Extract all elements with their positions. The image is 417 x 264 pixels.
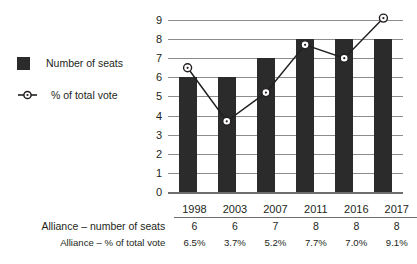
table-header-year: 1998 bbox=[174, 200, 214, 218]
y-axis-tick-label: 6 bbox=[156, 72, 162, 83]
table-header-row: 1998 2003 2007 2011 2016 2017 bbox=[0, 200, 417, 218]
table-cell: 8 bbox=[336, 218, 376, 235]
table-cell: 6 bbox=[215, 218, 255, 235]
data-table: 1998 2003 2007 2011 2016 2017 Alliance –… bbox=[0, 200, 417, 250]
table-row: Alliance – % of total vote 6.5% 3.7% 5.2… bbox=[0, 234, 417, 250]
legend-label-number-of-seats: Number of seats bbox=[43, 57, 123, 69]
table-corner-cell bbox=[0, 200, 174, 218]
table-header-year: 2017 bbox=[377, 200, 417, 218]
chart-legend: Number of seats % of total vote bbox=[17, 56, 157, 120]
y-axis-tick-label: 5 bbox=[156, 91, 162, 102]
table-row-label: Alliance – number of seats bbox=[0, 218, 174, 235]
table-header-year: 2016 bbox=[336, 200, 376, 218]
chart-figure: Number of seats % of total vote 01234567… bbox=[0, 0, 417, 264]
table-cell: 8 bbox=[296, 218, 336, 235]
y-axis-tick-label: 2 bbox=[156, 149, 162, 160]
table-cell: 6 bbox=[174, 218, 214, 235]
table-cell: 5.2% bbox=[255, 234, 295, 250]
y-axis-tick-label: 0 bbox=[156, 187, 162, 198]
table-cell: 7.7% bbox=[296, 234, 336, 250]
table-cell: 8 bbox=[377, 218, 417, 235]
gridline: 0 bbox=[168, 192, 403, 194]
line-series-group bbox=[168, 20, 403, 192]
table-cell: 7.0% bbox=[336, 234, 376, 250]
line-path bbox=[188, 18, 384, 121]
y-axis-tick-label: 4 bbox=[156, 111, 162, 122]
y-axis-tick-label: 1 bbox=[156, 168, 162, 179]
table-cell: 9.1% bbox=[377, 234, 417, 250]
table-header-year: 2003 bbox=[215, 200, 255, 218]
line-marker-dot bbox=[382, 17, 384, 19]
line-marker-dot bbox=[226, 120, 228, 122]
line-marker-dot bbox=[265, 92, 267, 94]
y-axis-tick-label: 8 bbox=[156, 34, 162, 45]
table-cell: 7 bbox=[255, 218, 295, 235]
table-header-year: 2007 bbox=[255, 200, 295, 218]
legend-swatch-square-icon bbox=[17, 57, 43, 70]
table-cell: 6.5% bbox=[174, 234, 214, 250]
y-axis-tick-label: 3 bbox=[156, 130, 162, 141]
legend-label-percent-of-total-vote: % of total vote bbox=[43, 89, 118, 101]
y-axis-tick-label: 7 bbox=[156, 53, 162, 64]
table-row-label: Alliance – % of total vote bbox=[0, 234, 174, 250]
table-cell: 3.7% bbox=[215, 234, 255, 250]
line-marker-dot bbox=[304, 44, 306, 46]
legend-line-circle-icon bbox=[17, 89, 43, 101]
line-marker-dot bbox=[186, 67, 188, 69]
table-row: Alliance – number of seats 6 6 7 8 8 8 bbox=[0, 218, 417, 235]
y-axis-tick-label: 9 bbox=[156, 15, 162, 26]
table-header-year: 2011 bbox=[296, 200, 336, 218]
line-marker-dot bbox=[343, 57, 345, 59]
plot-area: 0123456789 bbox=[168, 20, 403, 192]
legend-item-percent-of-total-vote: % of total vote bbox=[17, 88, 157, 102]
legend-item-number-of-seats: Number of seats bbox=[17, 56, 157, 70]
